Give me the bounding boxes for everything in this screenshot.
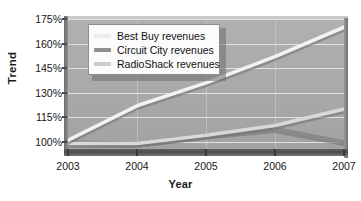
y-tick-label: 130% bbox=[18, 88, 62, 99]
y-tick-mark bbox=[62, 67, 67, 69]
y-tick-label: 100% bbox=[18, 137, 62, 148]
y-tick-mark bbox=[62, 116, 67, 118]
x-tick-mark bbox=[274, 149, 276, 156]
x-axis-title: Year bbox=[0, 178, 361, 190]
y-tick-label: 175% bbox=[18, 14, 62, 25]
x-tick-label: 2003 bbox=[42, 160, 94, 172]
legend-swatch-circuit-city bbox=[94, 48, 111, 52]
y-tick-mark bbox=[62, 43, 67, 45]
y-tick-label: 160% bbox=[18, 39, 62, 50]
series-line-shadow bbox=[68, 111, 344, 145]
y-tick-label: 115% bbox=[18, 112, 62, 123]
legend-item-circuit-city: Circuit City revenues bbox=[94, 43, 214, 57]
legend-label-circuit-city: Circuit City revenues bbox=[117, 44, 214, 57]
y-tick-label: 145% bbox=[18, 63, 62, 74]
x-tick-mark bbox=[205, 149, 207, 156]
x-tick-label: 2006 bbox=[249, 160, 301, 172]
x-tick-mark bbox=[67, 149, 69, 156]
x-tick-label: 2007 bbox=[318, 160, 361, 172]
legend-label-radioshack: RadioShack revenues bbox=[117, 58, 220, 71]
chart-figure: Trend 100%115%130%145%160%175% 200320042… bbox=[0, 0, 361, 201]
x-tick-label: 2005 bbox=[180, 160, 232, 172]
x-tick-label: 2004 bbox=[111, 160, 163, 172]
y-tick-mark bbox=[62, 18, 67, 20]
y-tick-mark bbox=[62, 141, 67, 143]
legend-item-best-buy: Best Buy revenues bbox=[94, 29, 214, 43]
x-axis-tick-labels: 20032004200520062007 bbox=[0, 160, 361, 176]
x-tick-mark bbox=[136, 149, 138, 156]
y-tick-mark bbox=[62, 92, 67, 94]
legend-swatch-radioshack bbox=[94, 62, 111, 66]
x-tick-mark bbox=[343, 149, 345, 156]
chart-legend: Best Buy revenues Circuit City revenues … bbox=[88, 24, 220, 75]
y-axis-title: Trend bbox=[6, 38, 18, 98]
y-axis-tick-labels: 100%115%130%145%160%175% bbox=[18, 12, 62, 152]
plot-right-wall bbox=[344, 18, 348, 158]
legend-label-best-buy: Best Buy revenues bbox=[117, 30, 205, 43]
legend-item-radioshack: RadioShack revenues bbox=[94, 57, 214, 71]
legend-swatch-best-buy bbox=[94, 34, 111, 38]
